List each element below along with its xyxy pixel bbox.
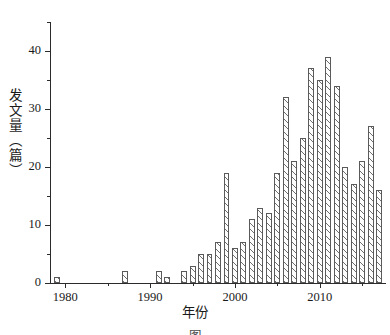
bar [240,242,246,283]
x-axis-line [50,283,386,284]
figure-caption: 图 [0,325,390,335]
bar [156,271,162,283]
bar [283,97,289,283]
bar [207,254,213,283]
y-tick-label: 40 [29,43,42,58]
bar [342,167,348,283]
figure-publications-by-year: 010203040 1980199020002010 发文量（篇） 年份 图 [0,0,390,335]
bar [257,208,263,283]
bar [300,138,306,283]
bar [359,161,365,283]
bar [224,173,230,283]
bar [54,277,60,283]
bar [249,219,255,283]
bar [368,126,374,283]
bar [308,68,314,283]
bar [317,80,323,283]
y-tick-label: 20 [29,159,42,174]
y-tick-mark [45,283,50,284]
bar [215,242,221,283]
bar [164,277,170,283]
bar [376,190,382,283]
x-tick-mark [150,283,151,288]
x-tick-mark [362,283,363,286]
bar-series [50,22,386,283]
bar [181,271,187,283]
bar [198,254,204,283]
x-tick-mark [277,283,278,286]
bar [334,86,340,283]
y-tick-label: 30 [29,101,42,116]
bar [351,184,357,283]
y-axis-title: 发文量（篇） [4,88,22,178]
x-tick-mark [235,283,236,288]
y-tick-label: 10 [29,217,42,232]
x-tick-mark [193,283,194,286]
x-tick-mark [65,283,66,288]
bar [266,213,272,283]
y-tick-label: 0 [35,275,41,290]
bar [122,271,128,283]
bar [190,266,196,283]
x-axis-title: 年份 [0,301,390,321]
bar [291,161,297,283]
x-tick-mark [108,283,109,286]
bar [325,57,331,283]
bar [274,173,280,283]
bar [232,248,238,283]
x-tick-mark [320,283,321,288]
